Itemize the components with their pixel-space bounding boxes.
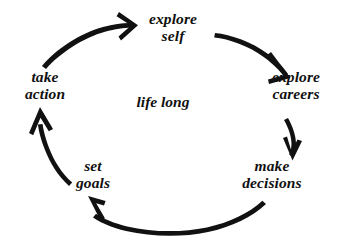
- node-label-make-decisions-line2: decisions: [242, 174, 301, 191]
- arrow-explore-careers-to-make-decisions: [283, 118, 302, 161]
- node-label-set-goals-line2: goals: [76, 174, 110, 191]
- node-label-take-action-line1: take: [25, 68, 65, 85]
- node-label-explore-self-line2: self: [149, 27, 197, 44]
- node-label-explore-self: explore self: [149, 10, 197, 45]
- cycle-diagram-canvas: explore self explore careers make decisi…: [0, 0, 340, 247]
- node-label-set-goals-line1: set: [76, 157, 110, 174]
- arrow-take-action-to-explore-self: [42, 12, 138, 69]
- node-label-explore-careers: explore careers: [272, 68, 320, 103]
- node-label-take-action: take action: [25, 68, 65, 103]
- center-label-life-long: life long: [137, 93, 190, 111]
- node-label-make-decisions-line1: make: [242, 157, 301, 174]
- arrow-make-decisions-to-set-goals: [88, 196, 266, 236]
- node-label-explore-careers-line2: careers: [272, 85, 320, 102]
- node-label-explore-careers-line1: explore: [272, 68, 320, 85]
- arrow-set-goals-to-take-action: [29, 107, 72, 186]
- node-label-set-goals: set goals: [76, 157, 110, 192]
- node-label-explore-self-line1: explore: [149, 10, 197, 27]
- node-label-make-decisions: make decisions: [242, 157, 301, 192]
- node-label-take-action-line2: action: [25, 85, 65, 102]
